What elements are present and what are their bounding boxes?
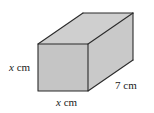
depth-unit: cm xyxy=(123,79,136,91)
height-unit: cm xyxy=(17,61,30,73)
cuboid-front-face xyxy=(38,44,88,91)
height-dimension-label: x cm xyxy=(9,62,30,73)
width-unit: cm xyxy=(64,96,77,108)
depth-value: 7 xyxy=(115,79,121,91)
cuboid-figure: x cm x cm 7 cm xyxy=(0,0,154,113)
depth-dimension-label: 7 cm xyxy=(115,80,137,91)
width-dimension-label: x cm xyxy=(56,97,77,108)
